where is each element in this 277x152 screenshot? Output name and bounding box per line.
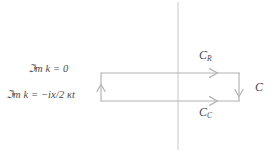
label-im-k-branch-cut: ℑm k = −ix/2 κt <box>6 90 75 101</box>
contour-plot-canvas <box>0 0 277 152</box>
label-contour-cr-base: C <box>199 48 207 62</box>
label-im-k-equals-zero: ℑm k = 0 <box>28 64 68 75</box>
label-contour-cr: CR <box>199 49 212 62</box>
label-contour-cc: CC <box>199 106 212 119</box>
contour-diagram-figure: ℑm k = 0 ℑm k = −ix/2 κt CR CC C <box>0 0 277 152</box>
label-contour-cc-subscript: C <box>207 111 212 120</box>
label-contour-cc-base: C <box>199 105 207 119</box>
label-contour-cr-subscript: R <box>207 54 212 63</box>
label-contour-c: C <box>255 81 263 93</box>
